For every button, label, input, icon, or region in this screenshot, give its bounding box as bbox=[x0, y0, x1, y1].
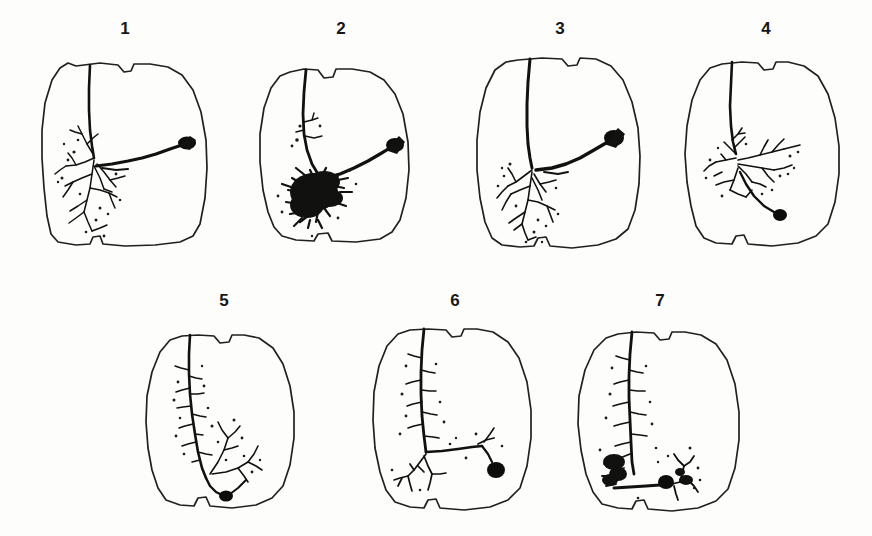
panel-label-4: 4 bbox=[676, 20, 856, 37]
panel-label-7: 7 bbox=[568, 292, 752, 309]
panel-drawing-1 bbox=[30, 48, 220, 253]
panel-drawing-2 bbox=[252, 50, 430, 250]
neuron-panel-7: 7 bbox=[568, 292, 752, 522]
panel-label-2: 2 bbox=[252, 20, 430, 37]
panel-drawing-7 bbox=[568, 322, 752, 514]
panel-drawing-3 bbox=[468, 46, 652, 254]
panel-drawing-4 bbox=[676, 48, 856, 252]
neuron-panel-3: 3 bbox=[468, 20, 652, 260]
figure-canvas: 1 bbox=[0, 0, 872, 536]
panel-label-5: 5 bbox=[138, 292, 310, 309]
panel-label-1: 1 bbox=[30, 20, 220, 37]
panel-drawing-6 bbox=[366, 318, 544, 514]
panel-label-6: 6 bbox=[366, 292, 544, 309]
neuron-panel-1: 1 bbox=[30, 20, 220, 260]
panel-label-3: 3 bbox=[468, 20, 652, 37]
panel-drawing-5 bbox=[138, 322, 310, 512]
neuron-panel-2: 2 bbox=[252, 20, 430, 260]
neuron-panel-5: 5 bbox=[138, 292, 310, 522]
neuron-panel-4: 4 bbox=[676, 20, 856, 260]
neuron-panel-6: 6 bbox=[366, 292, 544, 522]
